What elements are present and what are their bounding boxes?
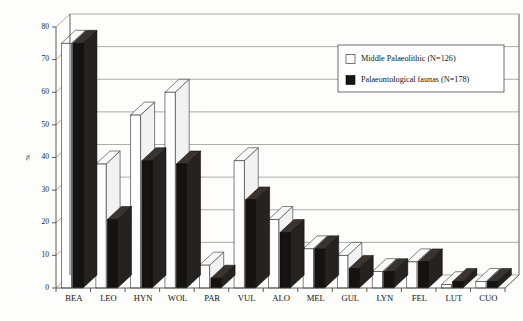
depth-line-80 <box>56 14 70 27</box>
bar-WOL-palaeontological-faunas <box>176 151 200 288</box>
bar-LUT-middle-palaeolithic-front <box>441 285 451 288</box>
y-axis-ticks-group: 01020304050607080 <box>42 22 57 292</box>
bar-HYN-middle-palaeolithic-front <box>130 115 140 288</box>
x-axis-label-BEA: BEA <box>65 293 83 303</box>
x-axis-labels-group: BEALEOHYNWOLPARVULALOMELGULLYNFELLUTCUO <box>56 288 505 303</box>
bar-ALO-palaeontological-faunas-front <box>280 233 290 288</box>
bar-BEA-palaeontological-faunas-front <box>73 43 83 288</box>
bar-PAR-middle-palaeolithic-front <box>200 265 210 288</box>
y-axis-title-group: % <box>24 154 32 160</box>
x-axis-label-PAR: PAR <box>204 293 220 303</box>
bar-HYN-palaeontological-faunas <box>142 148 166 288</box>
chart-legend: Middle Palaeolithic (N=126)Palaeontologi… <box>338 45 504 92</box>
y-axis-title: % <box>24 154 32 160</box>
bar-BEA-palaeontological-faunas <box>73 30 97 288</box>
y-tick-label-60: 60 <box>42 87 50 96</box>
legend-label-2: Palaeontological faunas (N=178) <box>361 75 470 84</box>
bar-CUO-palaeontological-faunas-front <box>487 281 497 288</box>
bar-VUL-palaeontological-faunas <box>245 187 269 288</box>
bar-VUL-middle-palaeolithic-front <box>234 161 244 288</box>
bar-ALO-palaeontological-faunas <box>280 220 304 288</box>
y-tick-label-0: 0 <box>45 283 49 292</box>
bar-WOL-palaeontological-faunas-side <box>187 151 201 288</box>
x-axis-label-GUL: GUL <box>341 293 359 303</box>
x-axis-label-ALO: ALO <box>272 293 290 303</box>
bar-ALO-middle-palaeolithic-front <box>269 219 279 288</box>
bar-LEO-palaeontological-faunas-front <box>107 219 117 288</box>
bar-WOL-palaeontological-faunas-front <box>176 164 186 288</box>
bar-LUT-palaeontological-faunas-front <box>453 281 463 288</box>
y-tick-label-30: 30 <box>42 185 50 194</box>
y-tick-label-50: 50 <box>42 120 50 129</box>
bar-chart: 01020304050607080 BEALEOHYNWOLPARVULALOM… <box>0 0 523 321</box>
bar-LYN-middle-palaeolithic-front <box>372 272 382 288</box>
x-axis-label-VUL: VUL <box>238 293 256 303</box>
bar-BEA-palaeontological-faunas-side <box>83 30 97 288</box>
x-axis-label-LEO: LEO <box>100 293 117 303</box>
bar-HYN-palaeontological-faunas-side <box>152 148 166 288</box>
bar-GUL-palaeontological-faunas-front <box>349 268 359 288</box>
bar-LEO-middle-palaeolithic-front <box>96 164 106 288</box>
x-axis-label-FEL: FEL <box>412 293 427 303</box>
bar-MEL-palaeontological-faunas-front <box>315 249 325 288</box>
bar-LUT-palaeontological-faunas <box>453 268 477 288</box>
bar-LEO-palaeontological-faunas-side <box>117 206 131 288</box>
x-axis-label-LYN: LYN <box>376 293 394 303</box>
bar-GUL-middle-palaeolithic-front <box>338 255 348 288</box>
x-axis-label-CUO: CUO <box>479 293 497 303</box>
x-axis-label-MEL: MEL <box>307 293 325 303</box>
bar-VUL-palaeontological-faunas-front <box>245 200 255 288</box>
y-tick-label-10: 10 <box>42 250 50 259</box>
bar-VUL-palaeontological-faunas-side <box>256 187 270 288</box>
bar-FEL-middle-palaeolithic-front <box>407 262 417 288</box>
bar-WOL-middle-palaeolithic-front <box>165 92 175 288</box>
chart-page: 01020304050607080 BEALEOHYNWOLPARVULALOM… <box>0 0 523 321</box>
legend-swatch-1 <box>346 55 355 64</box>
bar-HYN-palaeontological-faunas-front <box>142 161 152 288</box>
bar-MEL-middle-palaeolithic-front <box>303 249 313 288</box>
bar-FEL-palaeontological-faunas-front <box>418 262 428 288</box>
bar-CUO-middle-palaeolithic-front <box>476 281 486 288</box>
y-tick-label-70: 70 <box>42 54 50 63</box>
x-axis-label-WOL: WOL <box>168 293 188 303</box>
y-tick-label-80: 80 <box>42 22 50 31</box>
bar-PAR-palaeontological-faunas-front <box>211 278 221 288</box>
bar-LEO-palaeontological-faunas <box>107 206 131 288</box>
legend-frame <box>338 45 504 92</box>
legend-swatch-2 <box>346 76 355 85</box>
legend-label-1: Middle Palaeolithic (N=126) <box>361 54 456 63</box>
y-tick-label-40: 40 <box>42 152 50 161</box>
y-tick-label-20: 20 <box>42 217 50 226</box>
bar-LYN-palaeontological-faunas-front <box>384 272 394 288</box>
x-axis-label-LUT: LUT <box>446 293 463 303</box>
x-axis-label-HYN: HYN <box>134 293 153 303</box>
